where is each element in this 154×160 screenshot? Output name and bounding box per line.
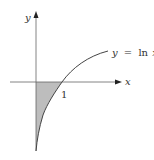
x-axis-arrow-icon <box>115 80 122 85</box>
function-label: y = ln x <box>111 47 154 58</box>
function-label-eq: = <box>124 47 132 58</box>
tick-label-1: 1 <box>61 89 67 100</box>
ln-function-diagram: y x 1 y = ln x <box>0 0 154 160</box>
function-label-ln: ln <box>138 47 148 58</box>
y-axis-arrow-icon <box>34 11 39 18</box>
y-axis-label: y <box>24 12 31 23</box>
x-axis-label: x <box>125 76 131 87</box>
function-label-lhs: y <box>111 47 118 58</box>
diagram-canvas: y x 1 y = ln x <box>0 0 154 160</box>
function-label-var: x <box>152 47 154 58</box>
shaded-region <box>36 82 62 151</box>
